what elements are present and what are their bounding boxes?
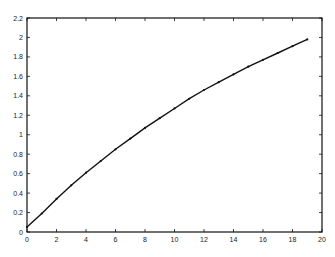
x-tick-label: 14 xyxy=(230,236,238,243)
data-point xyxy=(188,98,190,100)
y-tick-label: 2 xyxy=(19,34,23,41)
y-tick-label: 1.6 xyxy=(13,73,23,80)
y-tick-label: 0.2 xyxy=(13,209,23,216)
data-point xyxy=(262,59,264,61)
data-point xyxy=(129,138,131,140)
axes-box xyxy=(27,18,322,232)
y-tick-label: 0.6 xyxy=(13,170,23,177)
data-point xyxy=(70,184,72,186)
y-tick-label: 1 xyxy=(19,131,23,138)
y-tick-label: 0.4 xyxy=(13,190,23,197)
y-tick-label: 0.8 xyxy=(13,151,23,158)
data-point xyxy=(203,89,205,91)
x-tick-label: 6 xyxy=(114,236,118,243)
x-tick-label: 18 xyxy=(289,236,297,243)
x-tick-label: 2 xyxy=(55,236,59,243)
x-tick-label: 10 xyxy=(171,236,179,243)
y-tick-label: 2.2 xyxy=(13,15,23,22)
data-point xyxy=(114,148,116,150)
x-tick-label: 12 xyxy=(200,236,208,243)
data-point xyxy=(232,73,234,75)
x-tick-label: 20 xyxy=(318,236,326,243)
data-point xyxy=(55,198,57,200)
y-tick-label: 1.2 xyxy=(13,112,23,119)
data-point xyxy=(218,81,220,83)
data-point xyxy=(159,117,161,119)
data-point xyxy=(173,107,175,109)
x-tick-label: 16 xyxy=(259,236,267,243)
data-point xyxy=(247,66,249,68)
data-series-line xyxy=(27,39,307,227)
data-point xyxy=(41,212,43,214)
line-chart: 00.20.40.60.811.21.41.61.822.2 024681012… xyxy=(0,0,335,257)
data-point xyxy=(100,160,102,162)
y-tick-label: 0 xyxy=(19,229,23,236)
x-tick-label: 0 xyxy=(25,236,29,243)
data-point xyxy=(277,52,279,54)
data-point xyxy=(26,226,28,228)
y-tick-label: 1.4 xyxy=(13,92,23,99)
x-tick-label: 4 xyxy=(84,236,88,243)
y-axis-ticks: 00.20.40.60.811.21.41.61.822.2 xyxy=(13,15,322,236)
x-tick-label: 8 xyxy=(143,236,147,243)
data-point xyxy=(144,127,146,129)
y-tick-label: 1.8 xyxy=(13,53,23,60)
data-series-markers xyxy=(26,38,308,228)
data-point xyxy=(85,172,87,174)
data-point xyxy=(291,45,293,47)
data-point xyxy=(306,38,308,40)
